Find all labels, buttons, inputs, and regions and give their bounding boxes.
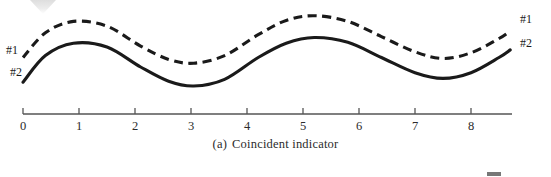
x-axis-tick-label: 3 — [188, 120, 194, 133]
series-line-1-dashed — [23, 16, 510, 64]
series-label-left-1: #1 — [6, 44, 18, 56]
figure-caption: (a)Coincident indicator — [0, 137, 551, 152]
series-line-2-solid — [23, 38, 510, 86]
caption-index: (a) — [213, 137, 227, 151]
x-axis-tick-label: 0 — [20, 120, 26, 133]
x-axis — [23, 108, 512, 114]
x-axis-ticks — [23, 108, 471, 114]
x-axis-tick-label: 4 — [244, 120, 250, 133]
caption-text: Coincident indicator — [232, 137, 338, 151]
x-axis-tick-label: 2 — [132, 120, 138, 133]
x-axis-tick-label: 7 — [412, 120, 418, 133]
x-axis-tick-label: 6 — [356, 120, 362, 133]
x-axis-tick-label: 5 — [300, 120, 306, 133]
series-label-left-2: #2 — [10, 66, 22, 78]
x-axis-tick-label: 8 — [468, 120, 474, 133]
x-axis-tick-label: 1 — [76, 120, 82, 133]
figure-coincident-indicator: #1 #2 #1 #2 012345678 (a)Coincident indi… — [0, 0, 551, 177]
series-label-right-1: #1 — [520, 13, 532, 25]
series-label-right-2: #2 — [520, 37, 532, 49]
